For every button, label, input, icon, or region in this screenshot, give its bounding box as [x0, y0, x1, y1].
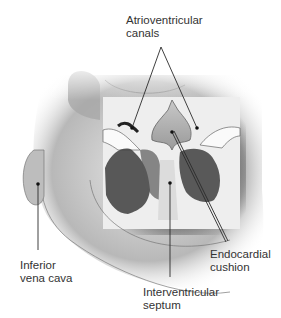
- label-line: septum: [143, 299, 219, 312]
- label-line: cushion: [210, 261, 271, 274]
- label-line: Endocardial: [210, 248, 271, 261]
- label-line: canals: [126, 27, 203, 40]
- label-endocardial-cushion: Endocardial cushion: [210, 248, 271, 274]
- label-atrioventricular-canals: Atrioventricular canals: [126, 14, 203, 40]
- label-line: Interventricular: [143, 286, 219, 299]
- label-inferior-vena-cava: Inferior vena cava: [20, 259, 72, 285]
- label-line: vena cava: [20, 272, 72, 285]
- label-interventricular-septum: Interventricular septum: [143, 286, 219, 312]
- cutaway-box: [90, 97, 246, 246]
- label-line: Atrioventricular: [126, 14, 203, 27]
- label-line: Inferior: [20, 259, 72, 272]
